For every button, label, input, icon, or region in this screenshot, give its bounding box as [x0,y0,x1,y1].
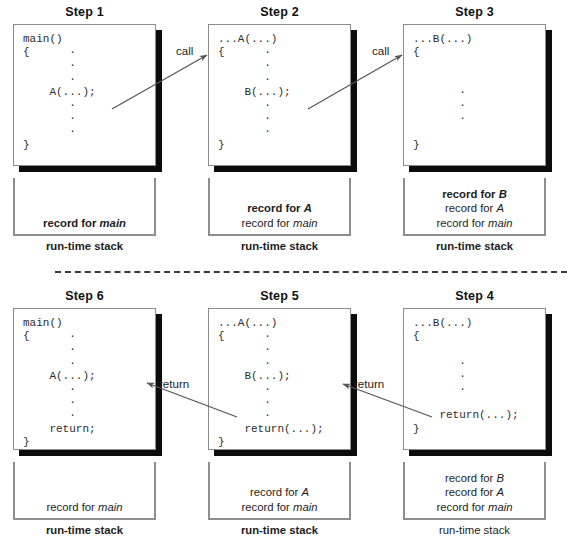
stack-caption-5: run-time stack [208,524,351,536]
code-box-6: main() { · · · A(...); · · · return; } [13,308,156,450]
stack-caption-6: run-time stack [13,524,156,536]
arrow-label-return-1: return [354,377,384,390]
stack-record: record for main [405,216,544,230]
code-card-4: ...B(...) { · · · return(...); } [403,308,546,450]
stack-record: record for main [405,500,544,514]
code-text-3: ...B(...) { · · · } [413,33,541,152]
figure-canvas: Step 1 main() { · · · A(...); · · · } re… [0,0,585,546]
stack-record: record for B [405,471,544,485]
stack-box-6: record for main [13,462,156,520]
stack-record: record for main [210,216,349,230]
code-box-5: ...A(...) { · · · B(...); · · · return(.… [208,308,351,450]
stack-card-3: record for B record for A record for mai… [403,178,546,252]
stack-caption-2: run-time stack [208,240,351,252]
code-text-5: ...A(...) { · · · B(...); · · · return(.… [218,317,346,449]
panel-step-4: Step 4 ...B(...) { · · · return(...); } … [398,288,551,536]
code-text-6: main() { · · · A(...); · · · return; } [23,317,151,449]
step-title-2: Step 2 [203,4,356,21]
step-title-6: Step 6 [8,288,161,305]
stack-card-4: record for B record for A record for mai… [403,462,546,536]
stack-records-5: record for A record for main [210,485,349,514]
stack-box-4: record for B record for A record for mai… [403,462,546,520]
stack-card-5: record for A record for main run-time st… [208,462,351,536]
stack-record: record for main [15,216,154,230]
stack-box-5: record for A record for main [208,462,351,520]
step-title-5: Step 5 [203,288,356,305]
stack-caption-4: run-time stack [403,524,546,536]
code-card-3: ...B(...) { · · · } [403,24,546,166]
code-card-6: main() { · · · A(...); · · · return; } [13,308,156,450]
stack-caption-3: run-time stack [403,240,546,252]
code-box-2: ...A(...) { · · · B(...); · · · } [208,24,351,166]
stack-records-3: record for B record for A record for mai… [405,187,544,230]
stack-box-2: record for A record for main [208,178,351,236]
stack-box-1: record for main [13,178,156,236]
stack-record: record for A [405,485,544,499]
arrow-label-return-2: return [159,377,189,390]
stack-record: record for main [210,500,349,514]
stack-box-3: record for B record for A record for mai… [403,178,546,236]
stack-caption-1: run-time stack [13,240,156,252]
stack-record: record for main [15,500,154,514]
arrow-label-call-2: call [372,44,389,57]
panel-step-2: Step 2 ...A(...) { · · · B(...); · · · }… [203,4,356,252]
step-title-3: Step 3 [398,4,551,21]
dashed-divider [55,271,567,273]
arrow-label-call-1: call [176,44,193,57]
code-text-4: ...B(...) { · · · return(...); } [413,317,541,436]
panel-step-6: Step 6 main() { · · · A(...); · · · retu… [8,288,161,536]
code-box-1: main() { · · · A(...); · · · } [13,24,156,166]
stack-records-6: record for main [15,500,154,514]
stack-card-6: record for main run-time stack [13,462,156,536]
stack-records-2: record for A record for main [210,201,349,230]
code-text-2: ...A(...) { · · · B(...); · · · } [218,33,346,152]
stack-card-1: record for main run-time stack [13,178,156,252]
code-card-1: main() { · · · A(...); · · · } [13,24,156,166]
step-title-1: Step 1 [8,4,161,21]
code-box-3: ...B(...) { · · · } [403,24,546,166]
panel-step-1: Step 1 main() { · · · A(...); · · · } re… [8,4,161,252]
stack-records-4: record for B record for A record for mai… [405,471,544,514]
stack-record: record for A [405,201,544,215]
panel-step-5: Step 5 ...A(...) { · · · B(...); · · · r… [203,288,356,536]
step-title-4: Step 4 [398,288,551,305]
stack-record: record for A [210,201,349,215]
code-card-5: ...A(...) { · · · B(...); · · · return(.… [208,308,351,450]
stack-records-1: record for main [15,216,154,230]
stack-card-2: record for A record for main run-time st… [208,178,351,252]
code-box-4: ...B(...) { · · · return(...); } [403,308,546,450]
stack-record: record for B [405,187,544,201]
code-card-2: ...A(...) { · · · B(...); · · · } [208,24,351,166]
code-text-1: main() { · · · A(...); · · · } [23,33,151,152]
stack-record: record for A [210,485,349,499]
panel-step-3: Step 3 ...B(...) { · · · } record for B … [398,4,551,252]
